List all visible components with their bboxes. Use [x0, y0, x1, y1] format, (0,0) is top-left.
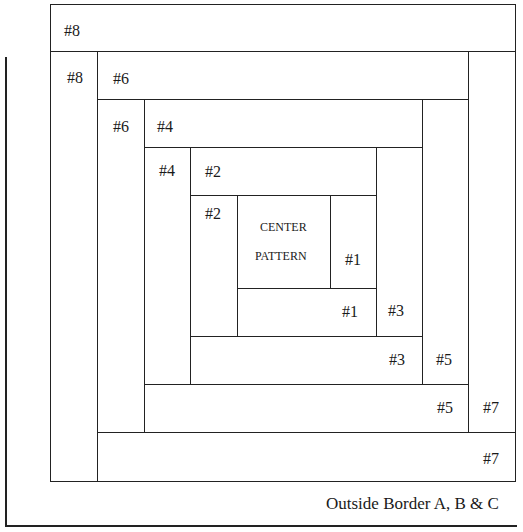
center-label-line1: CENTER [260, 221, 307, 233]
label-6-top: #6 [113, 71, 129, 87]
piece-6-left [97, 99, 145, 433]
center-label-line2: PATTERN [255, 250, 307, 262]
label-8-left: #8 [67, 70, 83, 86]
label-3-bottom: #3 [389, 352, 405, 368]
label-7-right: #7 [483, 400, 499, 416]
piece-8-top [50, 4, 516, 52]
outside-border-caption: Outside Border A, B & C [326, 494, 499, 514]
label-2-top: #2 [205, 164, 221, 180]
piece-8-left [50, 51, 98, 482]
piece-1-right [330, 195, 377, 289]
label-7-bottom: #7 [483, 451, 499, 467]
piece-6-top [97, 51, 469, 100]
label-1-bottom: #1 [342, 304, 358, 320]
label-5-right: #5 [436, 352, 452, 368]
piece-4-left [144, 147, 191, 385]
label-5-bottom: #5 [437, 400, 453, 416]
label-8-top: #8 [64, 23, 80, 39]
label-6-left: #6 [113, 119, 129, 135]
outside-border-bottom-line [5, 525, 517, 527]
center-pattern [237, 195, 331, 289]
piece-7-right [468, 51, 516, 433]
outside-border-left-line [5, 57, 7, 527]
label-2-left: #2 [205, 206, 221, 222]
piece-5-right [422, 99, 469, 385]
label-1-right: #1 [345, 252, 361, 268]
piece-4-top [144, 99, 423, 148]
label-3-right: #3 [388, 303, 404, 319]
piece-7-bottom [97, 432, 516, 482]
label-4-top: #4 [157, 119, 173, 135]
piece-5-bottom [144, 384, 469, 433]
label-4-left: #4 [159, 163, 175, 179]
